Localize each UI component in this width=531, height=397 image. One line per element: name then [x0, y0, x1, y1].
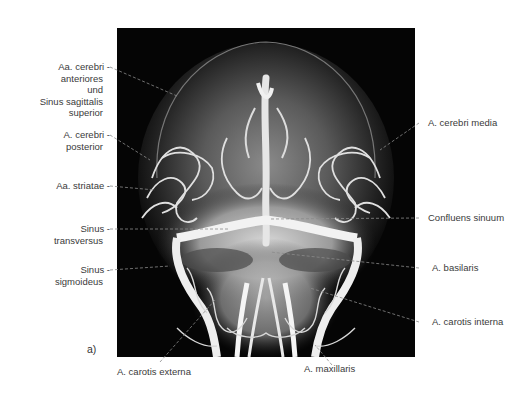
label-a-basilaris: A. basilaris [432, 262, 478, 274]
label-a-maxillaris: A. maxillaris [304, 363, 355, 375]
label-line: Aa. cerebri - [40, 61, 110, 73]
label-aa-cerebri-anteriores: Aa. cerebri - anteriores und Sinus sagit… [40, 61, 110, 119]
label-a-cerebri-posterior: A. cerebri - posterior [64, 129, 110, 152]
label-a-carotis-externa: A. carotis externa [117, 366, 191, 378]
label-confluens-sinuum: Confluens sinuum [428, 212, 504, 224]
panel-letter: a) [87, 343, 96, 355]
label-line: posterior [64, 141, 110, 153]
label-line: Sinus sagittalis [40, 96, 110, 108]
label-aa-striatae: Aa. striatae - [56, 180, 110, 192]
label-line: sigmoideus [55, 276, 110, 288]
label-line: transversus [54, 235, 110, 247]
label-line: A. cerebri - [64, 129, 110, 141]
angiogram-drawing [117, 28, 415, 357]
label-line: Sinus - [54, 223, 110, 235]
label-a-carotis-interna: A. carotis interna [432, 316, 503, 328]
angiogram-image [117, 28, 415, 357]
label-line: und [40, 84, 110, 96]
label-line: Aa. striatae - [56, 180, 110, 192]
label-line: anteriores [40, 73, 110, 85]
label-line: superior [40, 107, 110, 119]
label-sinus-sigmoideus: Sinus - sigmoideus [55, 264, 110, 287]
label-a-cerebri-media: A. cerebri media [428, 117, 497, 129]
label-line: Sinus - [55, 264, 110, 276]
label-sinus-transversus: Sinus - transversus [54, 223, 110, 246]
